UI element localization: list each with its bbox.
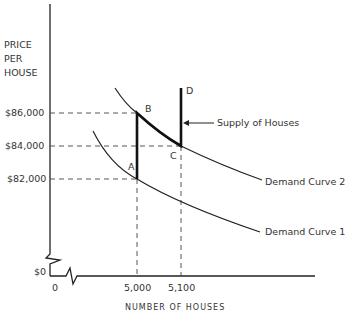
y-axis-label: PRICE PER HOUSE: [4, 38, 38, 80]
supply-path: [137, 88, 181, 179]
point-a-label: A: [128, 161, 135, 172]
x-axis-label: NUMBER OF HOUSES: [125, 303, 225, 312]
arrow-icon: [183, 120, 189, 126]
demand-curve-2-label: Demand Curve 2: [265, 176, 345, 187]
point-c-label: C: [170, 150, 177, 161]
x-tick-5000: 5,000: [124, 282, 151, 293]
x-tick-5100: 5,100: [168, 282, 195, 293]
y-tick-82000: $82,000: [7, 173, 46, 184]
point-d-label: D: [186, 85, 193, 96]
y-tick-86000: $86,000: [5, 107, 44, 118]
y-label-line-1: PRICE: [4, 38, 38, 52]
y-tick-84000: $84,000: [5, 140, 44, 151]
y-axis: [46, 4, 60, 276]
supply-label: Supply of Houses: [217, 117, 299, 128]
y-tick-0: $0: [34, 266, 46, 277]
demand-curve-1-label: Demand Curve 1: [265, 226, 345, 237]
guide-lines: [50, 113, 181, 276]
y-label-line-2: PER: [4, 52, 38, 66]
point-b-label: B: [145, 103, 152, 114]
y-label-line-3: HOUSE: [4, 66, 38, 80]
x-tick-0: 0: [52, 282, 58, 293]
